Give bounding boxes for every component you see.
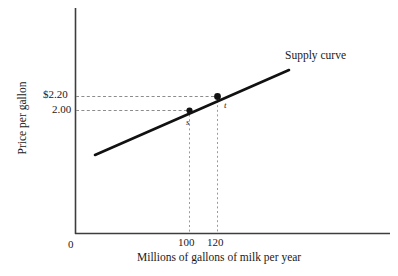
y-axis-title-text: Price per gallon bbox=[17, 82, 29, 155]
x-tick-label-120: 120 bbox=[207, 237, 224, 248]
y-axis-title: Price per gallon bbox=[16, 72, 30, 164]
data-point-label-s: s bbox=[186, 118, 190, 127]
data-point-t bbox=[214, 93, 221, 100]
y-tick-label-220: $2.20 bbox=[43, 89, 68, 100]
plot-area bbox=[0, 0, 398, 276]
x-origin-label: 0 bbox=[68, 239, 74, 250]
x-tick-label-100: 100 bbox=[178, 237, 195, 248]
data-point-label-t: t bbox=[224, 101, 227, 110]
data-point-s bbox=[186, 107, 192, 113]
x-axis-title: Millions of gallons of milk per year bbox=[137, 252, 301, 264]
supply-curve-annotation: Supply curve bbox=[285, 50, 346, 62]
supply-curve-line bbox=[95, 70, 289, 155]
y-tick-label-200: 2.00 bbox=[52, 104, 71, 115]
supply-curve-figure: Price per gallon Millions of gallons of … bbox=[0, 0, 398, 276]
